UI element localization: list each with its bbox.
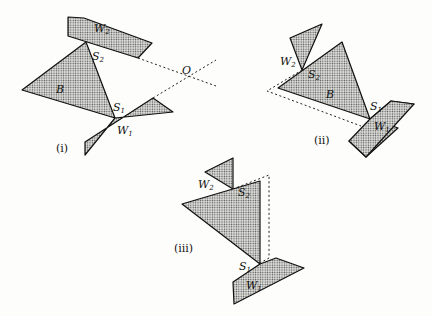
panel-iii: W2 S2 S1 W1 (iii) <box>174 158 304 304</box>
line-of-action-1 <box>138 58 216 86</box>
label-s1-ii: S1 <box>370 100 382 114</box>
panel-i: W2 S2 B S1 W1 O (i) <box>22 17 216 155</box>
caption-i: (i) <box>56 142 68 155</box>
diagram: W2 S2 B S1 W1 O (i) W2 S2 B S1 W1 (ii) <box>0 0 432 316</box>
label-w2-i: W2 <box>94 22 110 36</box>
caption-ii: (ii) <box>314 134 330 147</box>
label-s1-iii: S1 <box>239 260 251 274</box>
body-b-ii <box>278 42 370 119</box>
label-s1-i: S1 <box>113 101 125 115</box>
label-w2-ii: W2 <box>280 55 296 69</box>
label-body-ii: B <box>325 88 334 101</box>
panel-ii: W2 S2 B S1 W1 (ii) <box>267 24 414 157</box>
caption-iii: (iii) <box>174 242 193 255</box>
label-point-o: O <box>182 64 191 77</box>
figure-canvas: W2 S2 B S1 W1 O (i) W2 S2 B S1 W1 (ii) <box>0 0 432 316</box>
body-b-i <box>22 42 115 118</box>
label-w1-i: W1 <box>117 124 133 138</box>
label-body-i: B <box>55 83 64 96</box>
label-s2-i: S2 <box>92 50 105 64</box>
label-w2-iii: W2 <box>198 178 214 192</box>
